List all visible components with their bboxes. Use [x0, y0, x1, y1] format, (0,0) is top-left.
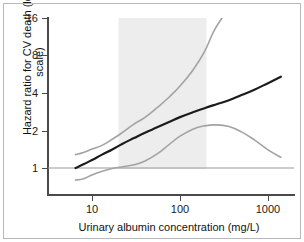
y-tick-mark-4 [42, 93, 47, 94]
x-tick-mark-10 [92, 196, 93, 201]
y-tick-label-16: 16 [8, 13, 38, 24]
x-axis-line [47, 194, 295, 196]
x-tick-mark-1000 [268, 196, 269, 201]
shaded-band [118, 18, 206, 169]
plot-area [48, 18, 294, 194]
y-tick-mark-2 [42, 131, 47, 132]
shaded-band-group [118, 18, 206, 169]
figure-container: Hazard ratio for CV death (log scale) 16… [0, 0, 304, 242]
y-tick-label-2: 2 [8, 126, 38, 137]
x-tick-label-10: 10 [67, 203, 117, 215]
x-axis-title: Urinary albumin concentration (mg/L) [40, 221, 298, 233]
y-tick-mark-1 [42, 168, 47, 169]
chart-svg [48, 18, 294, 194]
y-tick-mark-16 [42, 18, 47, 19]
y-tick-label-4: 4 [8, 88, 38, 99]
x-tick-label-1000: 1000 [243, 203, 293, 215]
y-tick-mark-8 [42, 55, 47, 56]
y-tick-label-8: 8 [8, 50, 38, 61]
x-tick-label-100: 100 [155, 203, 205, 215]
y-tick-label-1: 1 [8, 163, 38, 174]
x-tick-mark-100 [180, 196, 181, 201]
